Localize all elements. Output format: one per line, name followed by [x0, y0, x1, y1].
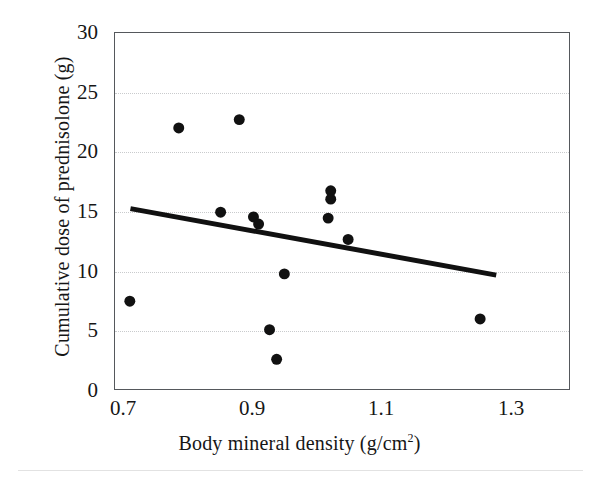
- bottom-divider: [18, 470, 583, 471]
- x-axis-title: Body mineral density (g/cm2): [0, 432, 599, 455]
- data-point: [323, 213, 334, 224]
- x-tick-label-0-7: 0.7: [88, 398, 158, 419]
- x-tick-label-0-9: 0.9: [217, 398, 287, 419]
- y-tick-label-15: 15: [52, 201, 98, 222]
- y-tick-label-20: 20: [52, 141, 98, 162]
- scatter-plot-figure: Cumulative dose of prednisolone (g) 30 2…: [0, 0, 599, 485]
- y-tick-label-25: 25: [52, 82, 98, 103]
- y-tick-label-30: 30: [52, 22, 98, 43]
- x-tick-label-1-1: 1.1: [346, 398, 416, 419]
- y-tick-label-10: 10: [52, 261, 98, 282]
- data-layer: [115, 33, 569, 389]
- data-point: [325, 194, 336, 205]
- data-point: [264, 324, 275, 335]
- data-point: [343, 234, 354, 245]
- data-point: [234, 114, 245, 125]
- x-axis-title-tail: ): [414, 432, 421, 454]
- x-axis-title-main: Body mineral density (g/cm: [178, 432, 407, 454]
- data-point: [253, 219, 264, 230]
- y-tick-label-5: 5: [52, 320, 98, 341]
- data-point: [271, 354, 282, 365]
- plot-area: [114, 32, 570, 390]
- x-tick-label-1-3: 1.3: [476, 398, 546, 419]
- data-point: [124, 296, 135, 307]
- data-point: [173, 122, 184, 133]
- data-point: [279, 268, 290, 279]
- trend-line: [130, 209, 496, 275]
- data-point: [475, 314, 486, 325]
- data-point: [215, 207, 226, 218]
